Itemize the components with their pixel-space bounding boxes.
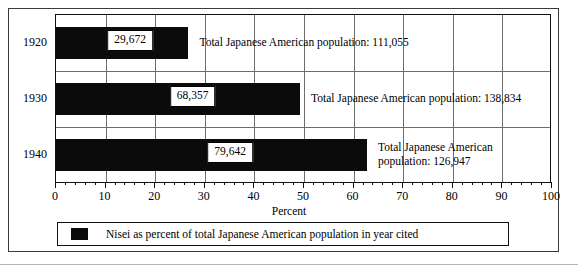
x-tick-label-90: 90 [481,190,521,202]
x-tick-76 [432,182,433,185]
x-tick-4 [75,182,76,185]
bar-value-label-1930: 68,357 [170,86,216,107]
x-tick-62 [363,182,364,185]
x-tick-72 [412,182,413,185]
x-tick-88 [491,182,492,185]
x-tick-84 [472,182,473,185]
x-tick-64 [372,182,373,185]
legend-swatch-nisei [71,228,88,240]
chart-legend: Nisei as percent of total Japanese Ameri… [57,222,509,246]
x-tick-10 [105,182,106,188]
x-tick-0 [55,182,56,188]
total-population-annotation-1940: Total Japanese Americanpopulation: 126,9… [378,141,498,168]
year-label-1940: 1940 [0,148,47,160]
x-tick-40 [253,182,254,188]
bar-row-1920: 29,672Total Japanese American population… [56,27,550,59]
x-tick-46 [283,182,284,185]
x-tick-94 [521,182,522,185]
x-tick-82 [462,182,463,185]
x-tick-12 [115,182,116,185]
x-tick-92 [511,182,512,185]
x-tick-38 [243,182,244,185]
x-tick-56 [333,182,334,185]
x-tick-48 [293,182,294,185]
year-label-1920: 1920 [0,36,47,48]
page-bottom-rule [0,264,578,265]
x-tick-label-70: 70 [382,190,422,202]
x-tick-label-20: 20 [134,190,174,202]
x-tick-20 [154,182,155,188]
x-tick-66 [382,182,383,185]
x-tick-label-50: 50 [283,190,323,202]
bar-value-label-1920: 29,672 [107,30,153,51]
x-tick-16 [134,182,135,185]
x-tick-6 [85,182,86,185]
x-tick-18 [144,182,145,185]
x-tick-32 [214,182,215,185]
gridline-horizontal-2 [56,127,550,128]
x-tick-30 [204,182,205,188]
x-tick-label-0: 0 [35,190,75,202]
year-label-1930: 1930 [0,92,47,104]
x-tick-58 [343,182,344,185]
bar-row-1940: 79,642Total Japanese Americanpopulation:… [56,139,550,171]
x-tick-90 [501,182,502,188]
x-tick-label-60: 60 [333,190,373,202]
x-tick-8 [95,182,96,185]
x-tick-26 [184,182,185,185]
x-tick-80 [452,182,453,188]
x-tick-label-10: 10 [85,190,125,202]
x-axis-title: Percent [0,205,578,217]
x-tick-54 [323,182,324,185]
x-tick-50 [303,182,304,188]
legend-label-nisei: Nisei as percent of total Japanese Ameri… [106,228,418,240]
x-tick-label-30: 30 [184,190,224,202]
x-tick-36 [234,182,235,185]
x-tick-label-80: 80 [432,190,472,202]
x-tick-44 [273,182,274,185]
x-tick-34 [224,182,225,185]
x-tick-86 [482,182,483,185]
x-tick-60 [353,182,354,188]
x-tick-70 [402,182,403,188]
gridline-horizontal-1 [56,71,550,72]
x-tick-2 [65,182,66,185]
total-population-annotation-1930: Total Japanese American population: 138,… [311,92,521,106]
x-tick-42 [263,182,264,185]
x-tick-100 [551,182,552,188]
x-tick-98 [541,182,542,185]
x-tick-78 [442,182,443,185]
x-tick-label-40: 40 [233,190,273,202]
bar-value-label-1940: 79,642 [207,142,253,163]
total-population-annotation-1920: Total Japanese American population: 111,… [199,36,408,50]
x-tick-22 [164,182,165,185]
x-tick-68 [392,182,393,185]
x-tick-96 [531,182,532,185]
chart-plot-area: 29,672Total Japanese American population… [55,14,551,182]
x-tick-74 [422,182,423,185]
x-tick-52 [313,182,314,185]
x-tick-28 [194,182,195,185]
x-tick-14 [124,182,125,185]
x-tick-label-100: 100 [531,190,571,202]
bar-row-1930: 68,357Total Japanese American population… [56,83,550,115]
x-tick-24 [174,182,175,185]
